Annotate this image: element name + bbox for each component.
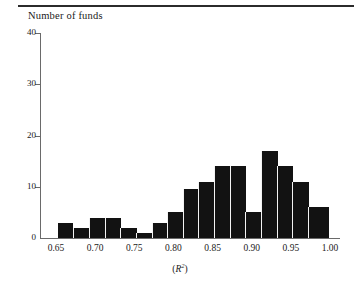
x-axis-tick-label: 0.75 [126,243,143,253]
x-axis-tick-label: 0.70 [87,243,104,253]
histogram-bar [152,223,169,238]
histogram-bar [58,223,74,238]
y-axis-tick-label: 20 [27,130,36,140]
histogram-bar [308,207,329,238]
histogram-bar [292,182,309,238]
x-axis-tick-label: 0.95 [283,243,300,253]
x-axis-tick-label: 0.85 [204,243,221,253]
x-axis-line [40,238,340,239]
x-axis-tick-label: 1.00 [322,243,339,253]
histogram-bar [277,166,294,238]
histogram-bar [198,182,215,238]
y-axis-tick-label: 30 [27,78,36,88]
histogram-bar [183,189,200,238]
y-axis-tick-label: 40 [27,27,36,37]
x-axis-tick-label: 0.80 [165,243,182,253]
histogram-bar [230,166,247,238]
x-axis-tick-label: 0.65 [48,243,65,253]
x-axis-tick-label: 0.90 [243,243,260,253]
histogram-bar [120,228,137,238]
histogram-bar [214,166,231,238]
histogram-bar [245,212,262,238]
histogram-bar [105,218,122,239]
histogram-bar [261,151,278,238]
x-axis-title-close-paren: ) [185,264,188,274]
y-axis-tick-label: 10 [27,181,36,191]
histogram-bar [136,233,153,238]
histogram-bar [73,228,90,238]
histogram-bar [167,212,184,238]
y-axis-tick-label: 0 [32,232,37,242]
histogram-figure: Number of funds 010203040 0.650.700.750.… [0,0,360,286]
histogram-bar [89,218,106,239]
x-axis-title: (R2) [0,262,360,274]
plot-area: 010203040 0.650.700.750.800.850.900.951.… [0,0,360,286]
